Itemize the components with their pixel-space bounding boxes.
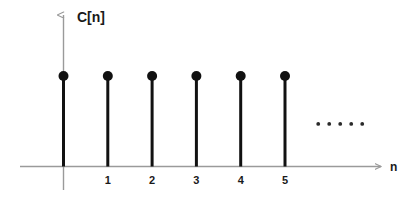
x-tick-label: 2 (149, 174, 155, 186)
ellipsis-dot (349, 122, 353, 126)
stem-marker-dot (280, 71, 290, 81)
stem-marker-dot (147, 71, 157, 81)
continuation-ellipsis (316, 122, 364, 126)
x-tick-label: 4 (238, 174, 245, 186)
x-axis-label: n (390, 160, 397, 174)
stem-sample (236, 71, 246, 167)
stem-marker-dot (191, 71, 201, 81)
ellipsis-dot (327, 122, 331, 126)
stem-sample (147, 71, 157, 167)
stem-marker-dot (103, 71, 113, 81)
stem-marker-dot (59, 71, 69, 81)
ellipsis-dot (338, 122, 342, 126)
axis-group (20, 15, 381, 190)
discrete-signal-figure: C[n] n 12345 (0, 0, 418, 201)
stem-sample (280, 71, 290, 167)
x-tick-label-group: 12345 (105, 174, 288, 186)
x-tick-label: 1 (105, 174, 111, 186)
stem-sample (191, 71, 201, 167)
stem-plot-canvas: C[n] n 12345 (0, 0, 418, 201)
stem-sample (59, 71, 69, 167)
x-tick-label: 5 (282, 174, 288, 186)
stem-sample (103, 71, 113, 167)
ellipsis-dot (360, 122, 364, 126)
stem-series-group (59, 71, 291, 167)
y-axis-label: C[n] (77, 9, 105, 25)
x-tick-label: 3 (193, 174, 199, 186)
stem-marker-dot (236, 71, 246, 81)
ellipsis-dot (316, 122, 320, 126)
